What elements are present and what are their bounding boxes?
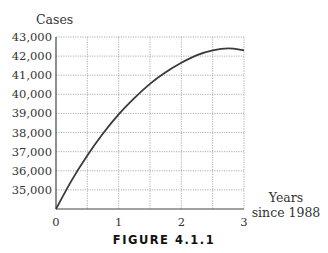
figure-caption: FIGURE 4.1.1 [113, 233, 215, 247]
line-chart: 35,00036,00037,00038,00039,00040,00041,0… [0, 0, 328, 253]
y-tick-label: 36,000 [12, 164, 52, 178]
grid [56, 37, 244, 209]
y-tick-label: 39,000 [12, 106, 52, 120]
x-axis-label-line1: Years [268, 190, 303, 205]
x-tick-label: 1 [115, 215, 122, 229]
y-tick-label: 42,000 [12, 49, 52, 63]
x-tick-label: 3 [240, 215, 247, 229]
x-tick-label: 2 [178, 215, 185, 229]
y-tick-label: 37,000 [12, 145, 52, 159]
x-axis-ticks: 0123 [52, 215, 247, 229]
y-axis-label: Cases [36, 12, 73, 27]
y-tick-label: 43,000 [12, 30, 52, 44]
y-tick-label: 40,000 [12, 87, 52, 101]
y-axis-ticks: 35,00036,00037,00038,00039,00040,00041,0… [12, 30, 52, 197]
y-tick-label: 35,000 [12, 183, 52, 197]
x-tick-label: 0 [52, 215, 59, 229]
y-tick-label: 38,000 [12, 126, 52, 140]
x-axis-label-line2: since 1988 [252, 205, 321, 220]
y-tick-label: 41,000 [12, 68, 52, 82]
